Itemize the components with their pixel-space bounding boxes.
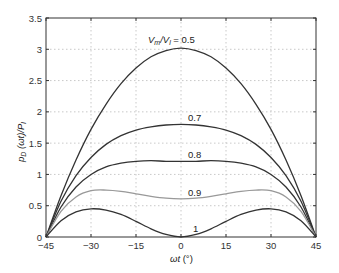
x-tick-label: −15: [128, 240, 144, 251]
y-axis-label: pD (ωt)/Pl: [15, 122, 27, 163]
curve-label-0.8: 0.8: [188, 149, 201, 160]
x-tick-label: −30: [83, 240, 99, 251]
x-tick-label: 0: [178, 240, 183, 251]
curve-label-1: 1: [193, 223, 198, 234]
y-tick-label: 1.5: [29, 138, 42, 149]
y-tick-label: 3.5: [29, 13, 42, 24]
curve-0.9: [46, 190, 316, 237]
x-tick-label: 45: [311, 240, 322, 251]
curve-0.7: [46, 124, 316, 237]
grid-lines: [46, 18, 316, 237]
x-axis-label: ωt (°): [170, 253, 193, 264]
line-chart: −45−30−15015304500.511.522.533.5 Vm/Vl =…: [0, 0, 339, 273]
curve-label-0.9: 0.9: [188, 187, 201, 198]
y-tick-label: 0.5: [29, 200, 42, 211]
x-tick-label: 15: [221, 240, 232, 251]
y-tick-label: 2.5: [29, 75, 42, 86]
y-tick-label: 0: [37, 232, 42, 243]
y-tick-label: 1: [37, 169, 42, 180]
y-tick-label: 2: [37, 106, 42, 117]
curve-label-0.7: 0.7: [188, 112, 201, 123]
y-tick-label: 3: [37, 44, 42, 55]
curve-label-0.5: Vm/Vl = 0.5: [148, 34, 195, 46]
x-tick-label: 30: [266, 240, 277, 251]
